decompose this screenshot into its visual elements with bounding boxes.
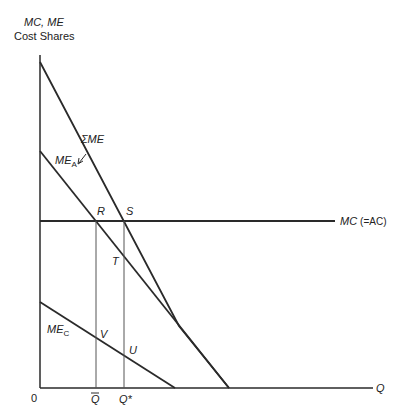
me-c-label: MEC: [47, 323, 70, 338]
sum-me-curve: [40, 62, 229, 388]
cost-share-diagram: MC, ME Cost Shares Q 0 ΣME MEA MEC MC(=A…: [0, 0, 400, 418]
mc-label: MC(=AC): [340, 215, 387, 227]
origin-label: 0: [31, 392, 37, 404]
me-a-label: MEA: [55, 154, 78, 169]
y-axis-label-bottom: Cost Shares: [14, 30, 75, 42]
point-v-label: V: [100, 328, 109, 340]
point-t-label: T: [112, 255, 120, 267]
me-c-curve: [40, 302, 175, 388]
point-s-label: S: [126, 205, 134, 217]
point-r-label: R: [97, 205, 105, 217]
point-u-label: U: [129, 344, 137, 356]
q-bar-label: Q: [91, 393, 100, 405]
sum-me-label: ΣME: [80, 133, 105, 145]
q-star-label: Q*: [119, 393, 133, 405]
y-axis-label-top: MC, ME: [24, 16, 64, 28]
x-axis-label: Q: [376, 382, 385, 394]
